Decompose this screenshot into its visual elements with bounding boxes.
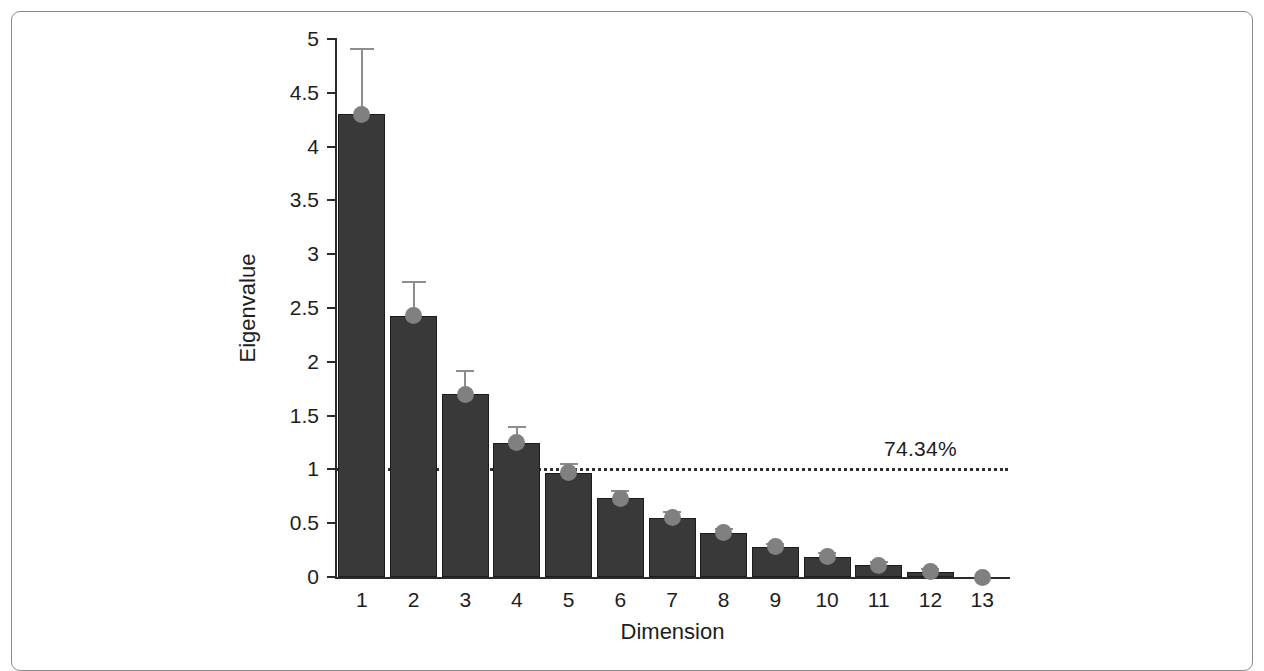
x-tick-label: 11 [854, 589, 904, 610]
bar [442, 394, 489, 577]
y-tick-label-text: 3.5 [275, 189, 319, 210]
y-tick-mark [327, 415, 335, 417]
y-tick-label-text: 0 [275, 566, 319, 587]
y-tick-label-text: 4 [275, 136, 319, 157]
y-axis-title: Eigenvalue [235, 254, 261, 363]
y-tick-label-text: 1 [275, 458, 319, 479]
y-tick-mark [327, 522, 335, 524]
error-bar-stem [361, 48, 363, 115]
y-tick-label: 0.5 [271, 512, 319, 534]
data-point-marker [457, 386, 474, 403]
y-tick-label: 0 [271, 566, 319, 588]
y-tick-mark [327, 38, 335, 40]
y-tick-label-text: 2 [275, 351, 319, 372]
bar [597, 498, 644, 577]
bar [545, 473, 592, 577]
x-tick-label: 6 [595, 589, 645, 610]
y-tick-mark [327, 576, 335, 578]
y-tick-mark [327, 253, 335, 255]
y-tick-mark [327, 468, 335, 470]
y-tick-mark [327, 92, 335, 94]
x-tick-label: 7 [647, 589, 697, 610]
data-point-marker [405, 307, 422, 324]
y-tick-label-text: 4.5 [275, 82, 319, 103]
y-tick-label-text: 1.5 [275, 405, 319, 426]
error-bar-cap [402, 281, 426, 283]
y-tick-label: 1.5 [271, 405, 319, 427]
y-tick-label-text: 3 [275, 243, 319, 264]
data-point-marker [612, 490, 629, 507]
y-tick-label: 2 [271, 351, 319, 373]
data-point-marker [974, 569, 991, 586]
data-point-marker [922, 563, 939, 580]
y-tick-label: 3.5 [271, 189, 319, 211]
y-tick-label: 1 [271, 458, 319, 480]
y-tick-mark [327, 146, 335, 148]
x-tick-label: 3 [440, 589, 490, 610]
bar [493, 443, 540, 578]
bar [390, 316, 437, 577]
bar [649, 518, 696, 577]
x-tick-label: 9 [750, 589, 800, 610]
x-tick-label: 10 [802, 589, 852, 610]
y-axis-line [335, 38, 337, 579]
y-tick-mark [327, 361, 335, 363]
data-point-marker [870, 557, 887, 574]
y-tick-label: 5 [271, 28, 319, 50]
x-tick-label: 2 [389, 589, 439, 610]
x-tick-label: 5 [544, 589, 594, 610]
x-tick-label: 13 [957, 589, 1007, 610]
y-tick-mark [327, 307, 335, 309]
x-tick-label: 4 [492, 589, 542, 610]
y-tick-label-text: 0.5 [275, 512, 319, 533]
error-bar-cap [508, 426, 526, 428]
x-axis-title: Dimension [335, 619, 1010, 645]
data-point-marker [819, 548, 836, 565]
x-tick-label: 12 [905, 589, 955, 610]
y-tick-label: 2.5 [271, 297, 319, 319]
y-tick-label: 4 [271, 136, 319, 158]
error-bar-cap [350, 48, 374, 50]
y-tick-label-text: 5 [275, 28, 319, 49]
y-tick-label: 3 [271, 243, 319, 265]
cumulative-variance-label: 74.34% [884, 437, 957, 461]
y-tick-mark [327, 199, 335, 201]
error-bar-cap [456, 370, 474, 372]
data-point-marker [664, 509, 681, 526]
x-tick-label: 8 [699, 589, 749, 610]
x-axis-line [335, 577, 1010, 579]
bar [338, 114, 385, 577]
x-tick-label: 1 [337, 589, 387, 610]
y-tick-label-text: 2.5 [275, 297, 319, 318]
y-tick-label: 4.5 [271, 82, 319, 104]
